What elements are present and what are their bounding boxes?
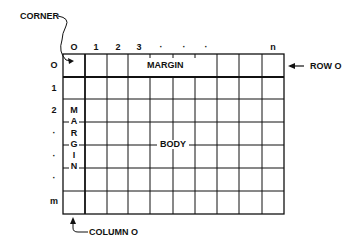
column-index: ·	[155, 43, 167, 52]
corner-arrowhead-icon	[68, 58, 74, 64]
row-index: 1	[48, 84, 60, 93]
top-margin-label: MARGIN	[146, 61, 185, 70]
side-margin-letter: N	[69, 162, 79, 171]
column0-label: COLUMN O	[89, 228, 138, 237]
row0-arrowhead-icon	[288, 63, 295, 69]
row-index: O	[48, 61, 60, 70]
row-index: ·	[48, 152, 60, 161]
column-index: 1	[90, 43, 102, 52]
grid-column-lines	[85, 54, 262, 214]
corner-label: CORNER	[20, 12, 59, 21]
row-index: ·	[48, 174, 60, 183]
row-index: 2	[48, 106, 60, 115]
column-index: 2	[112, 43, 124, 52]
column-index: n	[267, 43, 279, 52]
column-index: ·	[200, 43, 212, 52]
side-margin-letter: I	[69, 151, 79, 160]
grid-drawing	[0, 0, 363, 250]
side-margin-letter: A	[69, 117, 79, 126]
side-margin-letter: G	[69, 140, 79, 149]
body-label: BODY	[157, 140, 189, 149]
column-index: ·	[178, 43, 190, 52]
column0-arrowhead-icon	[70, 217, 76, 224]
row-index: ·	[48, 129, 60, 138]
side-margin-letter: M	[69, 106, 79, 115]
row0-label: ROW O	[310, 62, 342, 71]
row-index: m	[48, 197, 60, 206]
side-margin-letter: R	[69, 129, 79, 138]
column-index: O	[68, 43, 80, 52]
column-index: 3	[133, 43, 145, 52]
